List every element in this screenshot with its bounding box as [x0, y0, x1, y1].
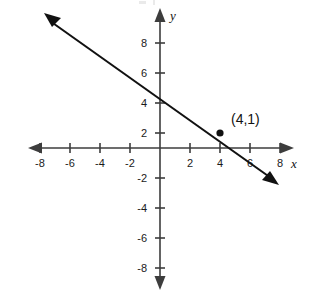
y-tick-label--4: -4 — [137, 202, 147, 214]
y-axis-arrow-down-icon — [155, 276, 166, 290]
scan-artifact-top — [139, 1, 146, 4]
coordinate-graph: -8 -6 -4 -2 2 4 6 8 8 6 4 2 -2 -4 -6 -8 … — [0, 0, 309, 297]
y-tick-label-8: 8 — [141, 37, 147, 49]
y-tick-label-6: 6 — [141, 67, 147, 79]
y-tick-label--8: -8 — [137, 262, 147, 274]
y-axis-tick-labels: 8 6 4 2 -2 -4 -6 -8 — [137, 37, 147, 274]
y-tick-label-2: 2 — [141, 127, 147, 139]
x-axis-tick-labels: -8 -6 -4 -2 2 4 6 8 — [35, 157, 283, 169]
x-tick-label--8: -8 — [35, 157, 45, 169]
x-tick-label--6: -6 — [65, 157, 75, 169]
scan-artifact-top-2 — [153, 0, 155, 5]
y-axis-group — [155, 8, 166, 290]
x-tick-label-2: 2 — [187, 157, 193, 169]
x-tick-label-8: 8 — [277, 157, 283, 169]
x-tick-label--4: -4 — [95, 157, 105, 169]
x-axis-label: x — [290, 156, 297, 171]
graph-canvas: -8 -6 -4 -2 2 4 6 8 8 6 4 2 -2 -4 -6 -8 … — [0, 0, 309, 297]
y-axis-label: y — [168, 8, 176, 23]
y-tick-label-4: 4 — [141, 97, 147, 109]
x-tick-label--2: -2 — [125, 157, 135, 169]
y-tick-label--2: -2 — [137, 172, 147, 184]
data-point-label: (4,1) — [231, 111, 260, 127]
y-tick-label--6: -6 — [137, 232, 147, 244]
x-tick-label-4: 4 — [217, 157, 223, 169]
x-axis-group — [28, 143, 294, 154]
x-axis-arrow-right-icon — [280, 143, 294, 154]
data-point-4-1 — [216, 129, 223, 136]
line-arrow-upper-left-icon — [44, 13, 61, 27]
plotted-line-group — [44, 13, 279, 185]
y-axis-arrow-up-icon — [155, 8, 166, 22]
